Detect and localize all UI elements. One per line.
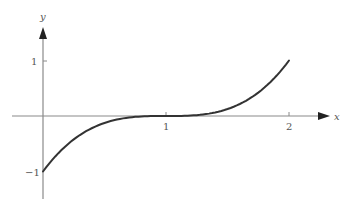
cubic-function-chart: x y 1 −1 1 2 <box>0 0 350 207</box>
y-tick-label-neg1: −1 <box>25 167 40 178</box>
x-axis-label: x <box>334 111 340 122</box>
y-tick-label-1: 1 <box>31 56 37 67</box>
x-tick-label-1: 1 <box>163 121 169 132</box>
y-axis-arrow-icon <box>39 27 47 39</box>
y-axis-label: y <box>39 11 46 22</box>
x-axis-arrow-icon <box>318 112 330 120</box>
x-tick-label-2: 2 <box>286 121 292 132</box>
